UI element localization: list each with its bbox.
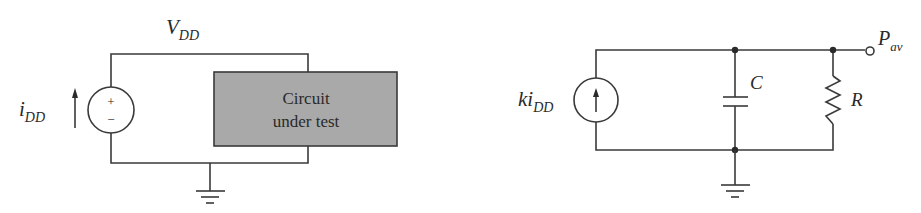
junction-dot bbox=[830, 47, 836, 53]
output-terminal-icon bbox=[866, 47, 874, 55]
left-circuit: VDD + − iDD Circuit under test bbox=[19, 15, 397, 203]
bottom-rail bbox=[596, 122, 833, 150]
current-source-icon bbox=[574, 78, 618, 122]
junction-dot bbox=[732, 47, 738, 53]
capacitor-icon bbox=[723, 50, 748, 150]
idd-label: iDD bbox=[19, 97, 45, 125]
capacitor-label: C bbox=[750, 72, 763, 93]
circuit-under-test-box: Circuit under test bbox=[214, 72, 397, 146]
vdd-label: VDD bbox=[166, 15, 199, 43]
resistor-label: R bbox=[850, 89, 863, 110]
current-arrow-icon bbox=[72, 88, 78, 128]
top-rail bbox=[596, 50, 865, 78]
minus-sign: − bbox=[107, 112, 114, 127]
voltage-source-icon: + − bbox=[88, 87, 134, 133]
ground-icon bbox=[721, 150, 750, 197]
pav-label: Pav bbox=[877, 27, 903, 54]
box-label-line2: under test bbox=[273, 112, 340, 131]
box-label-line1: Circuit bbox=[282, 89, 329, 108]
right-circuit: kiDD C R Pav bbox=[518, 27, 903, 197]
resistor-icon bbox=[826, 50, 840, 124]
plus-sign: + bbox=[107, 94, 114, 109]
kidd-label: kiDD bbox=[518, 87, 553, 115]
circuit-diagram: VDD + − iDD Circuit under test bbox=[0, 0, 921, 213]
ground-icon bbox=[196, 163, 225, 203]
